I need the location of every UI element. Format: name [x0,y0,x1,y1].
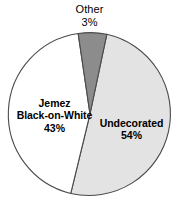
slice-label-undecorated-name: Undecorated [100,117,164,129]
slice-label-other-name: Other [75,3,103,15]
slice-label-jemez-line1: Jemez [39,97,71,109]
slice-label-other: Other 3% [0,3,179,29]
slice-label-jemez-percent: 43% [7,122,102,134]
slice-label-undecorated-percent: 54% [90,129,173,141]
pie-chart: Other 3% Jemez Black-on-White 43% Undeco… [0,0,179,205]
slice-label-undecorated: Undecorated 54% [90,117,173,142]
slice-label-other-percent: 3% [0,16,179,29]
slice-label-jemez-line2: Black-on-White [17,109,93,121]
slice-label-jemez-black-on-white: Jemez Black-on-White 43% [7,97,102,134]
